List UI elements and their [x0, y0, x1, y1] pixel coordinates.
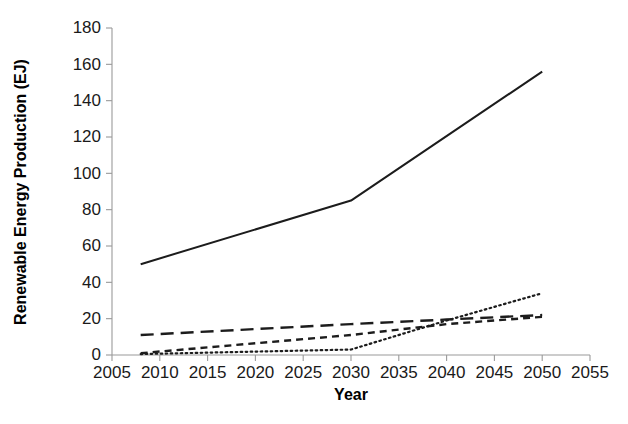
- chart-container: 020406080100120140160180 200520102015202…: [0, 0, 628, 424]
- y-tick-label: 140: [73, 91, 101, 110]
- x-tick-label: 2015: [189, 363, 227, 382]
- line-chart: 020406080100120140160180 200520102015202…: [0, 0, 628, 424]
- x-tick-label: 2040: [428, 363, 466, 382]
- y-tick-label: 0: [92, 345, 101, 364]
- x-axis-title: Year: [334, 386, 368, 403]
- y-tick-label: 160: [73, 55, 101, 74]
- x-tick-label: 2005: [93, 363, 131, 382]
- y-tick-label: 120: [73, 127, 101, 146]
- y-tick-label: 60: [82, 236, 101, 255]
- x-tick-label: 2045: [475, 363, 513, 382]
- x-tick-label: 2010: [141, 363, 179, 382]
- y-tick-label: 80: [82, 200, 101, 219]
- y-tick-label: 20: [82, 309, 101, 328]
- y-tick-label: 100: [73, 164, 101, 183]
- x-tick-label: 2050: [523, 363, 561, 382]
- x-tick-label: 2025: [284, 363, 322, 382]
- x-tick-label: 2030: [332, 363, 370, 382]
- y-tick-label: 40: [82, 273, 101, 292]
- x-tick-label: 2055: [571, 363, 609, 382]
- y-tick-label: 180: [73, 18, 101, 37]
- x-tick-label: 2035: [380, 363, 418, 382]
- y-axis-title: Renewable Energy Production (EJ): [12, 59, 29, 325]
- x-tick-label: 2020: [236, 363, 274, 382]
